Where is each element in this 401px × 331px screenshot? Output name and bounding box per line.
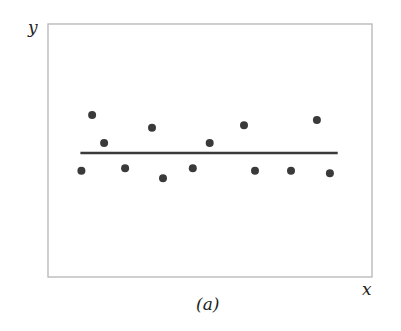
data-point [100, 139, 108, 147]
x-axis-label: x [362, 279, 372, 299]
data-point [251, 167, 259, 175]
y-axis-label: y [28, 17, 38, 37]
data-point [159, 174, 167, 182]
scatter-plot [0, 0, 401, 331]
data-point [287, 167, 295, 175]
data-point [148, 124, 156, 132]
data-point [121, 164, 129, 172]
data-point [240, 121, 248, 129]
plot-frame [48, 24, 372, 277]
data-point [77, 167, 85, 175]
data-point [326, 169, 334, 177]
data-point [88, 111, 96, 119]
data-points [77, 111, 334, 182]
figure-caption: (a) [196, 294, 219, 314]
data-point [206, 139, 214, 147]
scatter-figure: y x (a) [0, 0, 401, 331]
data-point [313, 116, 321, 124]
data-point [189, 164, 197, 172]
